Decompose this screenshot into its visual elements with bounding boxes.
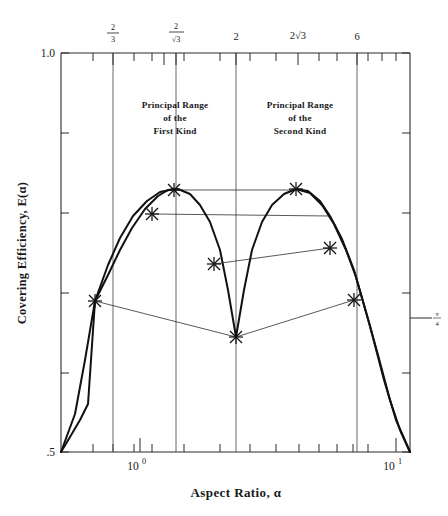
- efficiency-curve-right-tail: [296, 189, 410, 452]
- reference-vline-ticks: [113, 53, 357, 65]
- annotation-line-1: Principal Range: [142, 100, 209, 110]
- efficiency-curve-left-tail: [61, 189, 174, 452]
- annotation-line-3: Second Kind: [274, 126, 327, 136]
- marker-left-peak: [167, 183, 181, 197]
- chord-inner: [214, 248, 330, 264]
- reference-numerator: π: [435, 310, 439, 317]
- x-tick-label-10e0: 10 0: [127, 457, 146, 472]
- pi-over-four-reference: π 4: [410, 310, 441, 327]
- top-label-two: 2: [233, 31, 238, 42]
- marker-left-low: [88, 294, 102, 308]
- y-tick-label-top: 1.0: [41, 47, 56, 59]
- marker-left-inner: [207, 257, 221, 271]
- chord-lines: [95, 190, 354, 337]
- top-label-two-thirds: 2 3: [107, 23, 119, 44]
- reference-denominator: 4: [435, 320, 439, 327]
- annotation-line-2: of the: [288, 113, 311, 123]
- fraction-numerator: 2: [174, 22, 178, 31]
- top-label-two-over-root-three: 2 √3: [169, 22, 184, 44]
- chord-mid: [152, 214, 330, 216]
- annotation-line-2: of the: [163, 113, 186, 123]
- x-axis-ticks-bottom: [93, 438, 396, 452]
- marker-right-mid: [323, 241, 337, 255]
- x-tick-exponent-1: 1: [398, 457, 402, 466]
- fraction-numerator: 2: [111, 23, 115, 32]
- top-label-six: 6: [354, 31, 359, 42]
- annotation-second-kind: Principal Range of the Second Kind: [267, 100, 334, 136]
- fraction-denominator: √3: [172, 35, 181, 44]
- y-axis-title: Covering Efficiency, E(α): [15, 182, 29, 325]
- chart-svg: 1.0 .5 10 0 1: [0, 0, 448, 516]
- y-tick-label-bottom: .5: [46, 446, 55, 458]
- data-markers: [88, 182, 361, 344]
- top-label-two-root-three: 2√3: [290, 30, 306, 41]
- chord-low-right: [236, 300, 354, 337]
- annotation-first-kind: Principal Range of the First Kind: [142, 100, 209, 136]
- figure-container: 1.0 .5 10 0 1: [0, 0, 448, 516]
- reference-vlines: [113, 53, 357, 452]
- annotation-line-3: First Kind: [153, 126, 196, 136]
- x-axis-title: Aspect Ratio, α: [191, 485, 282, 500]
- marker-left-mid: [145, 207, 159, 221]
- chord-low-left: [95, 301, 236, 337]
- marker-right-low: [347, 293, 361, 307]
- x-tick-mantissa-0: 10: [127, 460, 139, 472]
- x-tick-label-10e1: 10 1: [383, 457, 402, 472]
- marker-right-inner: [289, 182, 303, 196]
- x-tick-mantissa-1: 10: [383, 460, 395, 472]
- annotation-line-1: Principal Range: [267, 100, 334, 110]
- marker-valley: [229, 330, 243, 344]
- x-axis-ticks-top: [93, 53, 396, 65]
- x-tick-exponent-0: 0: [142, 457, 146, 466]
- fraction-denominator: 3: [111, 35, 115, 44]
